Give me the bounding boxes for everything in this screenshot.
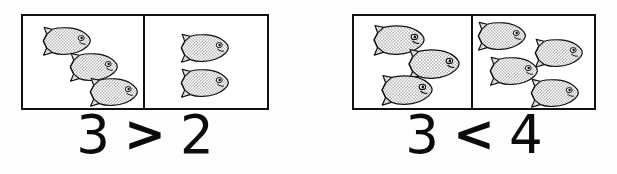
- fish-cell-2-left: [354, 16, 471, 108]
- fish-cell-1-right: [143, 16, 267, 108]
- worksheet: 3 > 2: [0, 0, 617, 174]
- comparison-equation-1: 3 > 2: [21, 108, 269, 172]
- fish-icon: [370, 74, 436, 106]
- fish-icon: [170, 33, 232, 63]
- fish-icon: [79, 77, 141, 107]
- fish-box-pair-2: [352, 14, 596, 110]
- right-count-label: 4: [509, 108, 543, 162]
- fish-icon: [471, 21, 529, 51]
- fish-cell-2-right: [471, 16, 594, 108]
- fish-box-pair-1: [21, 14, 269, 110]
- fish-cell-1-left: [23, 16, 143, 108]
- left-count-label: 3: [76, 108, 110, 162]
- comparison-equation-2: 3 < 4: [352, 108, 596, 172]
- greater-than-icon: >: [124, 109, 166, 160]
- left-count-label: 3: [405, 108, 439, 162]
- right-count-label: 2: [180, 108, 214, 162]
- less-than-icon: <: [453, 109, 495, 160]
- fish-icon: [170, 68, 232, 98]
